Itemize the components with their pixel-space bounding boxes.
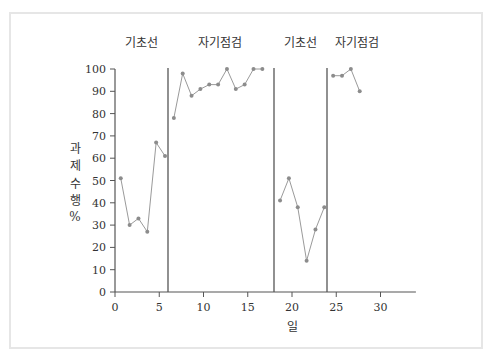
data-point (287, 176, 291, 180)
data-point (296, 205, 300, 209)
y-tick-label: 90 (92, 85, 106, 98)
y-tick-label: 40 (92, 197, 106, 210)
y-axis-title-char: 행 (70, 193, 81, 208)
phase-label: 기초선 (284, 36, 317, 50)
data-series (119, 67, 362, 263)
y-axis-title: 과제수행% (69, 142, 80, 224)
phase-label: 자기점검 (198, 36, 242, 50)
data-point (358, 89, 362, 93)
y-axis-title-char: % (69, 210, 80, 224)
y-tick-label: 0 (99, 286, 106, 299)
data-point (278, 199, 282, 203)
y-tick-label: 20 (92, 241, 106, 254)
data-point (252, 67, 256, 71)
y-axis-title-char: 과 (70, 142, 81, 156)
data-point (207, 83, 211, 87)
series-line (333, 69, 360, 91)
data-point (225, 67, 229, 71)
data-point (260, 67, 264, 71)
series-line (174, 69, 263, 118)
y-tick-label: 60 (92, 152, 106, 165)
series-line (280, 178, 324, 261)
data-point (136, 216, 140, 220)
x-axis: 051015202530 (112, 292, 416, 314)
y-tick-label: 80 (92, 108, 106, 121)
y-tick-label: 100 (85, 63, 106, 76)
x-tick-label: 20 (285, 301, 299, 314)
data-point (340, 74, 344, 78)
data-point (331, 74, 335, 78)
x-tick-label: 10 (197, 301, 211, 314)
y-axis-title-char: 수 (70, 177, 81, 191)
data-point (216, 83, 220, 87)
data-point (322, 205, 326, 209)
series-line (121, 143, 165, 232)
x-tick-label: 5 (156, 301, 163, 314)
data-point (313, 228, 317, 232)
phase-label: 자기점검 (335, 36, 379, 50)
phase-labels: 기초선자기점검기초선자기점검 (125, 36, 380, 50)
y-tick-label: 10 (92, 264, 106, 277)
y-axis-title-char: 제 (70, 159, 81, 173)
data-point (119, 176, 123, 180)
data-point (181, 71, 185, 75)
x-axis-title: 일 (287, 320, 298, 334)
data-point (234, 87, 238, 91)
line-chart: 기초선자기점검기초선자기점검 0102030405060708090100 05… (0, 0, 495, 360)
data-point (198, 87, 202, 91)
y-tick-label: 30 (92, 219, 106, 232)
data-point (128, 223, 132, 227)
data-point (243, 83, 247, 87)
data-point (349, 67, 353, 71)
phase-label: 기초선 (125, 36, 158, 50)
data-point (145, 230, 149, 234)
data-point (305, 259, 309, 263)
data-point (163, 154, 167, 158)
x-tick-label: 15 (241, 301, 255, 314)
x-tick-label: 25 (329, 301, 343, 314)
x-tick-label: 30 (374, 301, 388, 314)
y-tick-label: 50 (92, 175, 106, 188)
phase-change-lines (168, 68, 327, 292)
y-tick-label: 70 (92, 130, 106, 143)
x-tick-label: 0 (112, 301, 119, 314)
data-point (190, 94, 194, 98)
data-point (154, 141, 158, 145)
data-point (172, 116, 176, 120)
y-axis: 0102030405060708090100 (85, 63, 115, 299)
